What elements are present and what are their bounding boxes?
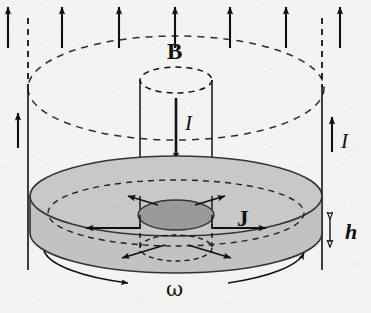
- label-angular-velocity: ω: [166, 279, 183, 300]
- label-thickness: h: [345, 221, 357, 243]
- label-current-center: I: [185, 113, 192, 134]
- physics-diagram-figure: B I I J h ω: [0, 0, 371, 313]
- central-electrode: [138, 200, 214, 230]
- central-cylinder-top-cap: [140, 67, 212, 93]
- label-b-field: B: [167, 40, 182, 63]
- label-current-density: J: [237, 207, 249, 230]
- diagram-canvas: [0, 0, 371, 313]
- label-current-return: I: [341, 131, 348, 152]
